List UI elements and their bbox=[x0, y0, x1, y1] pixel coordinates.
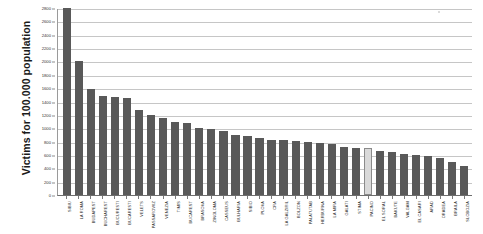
x-axis-tick-label: ARAD bbox=[428, 190, 432, 201]
y-axis-tick-mark bbox=[52, 35, 55, 36]
bar-slot bbox=[374, 9, 386, 195]
bar[interactable] bbox=[255, 138, 263, 195]
y-axis-tick-mark bbox=[52, 102, 55, 103]
x-axis-tick-slot: PLOVA bbox=[253, 196, 265, 234]
bar[interactable] bbox=[75, 61, 83, 195]
bar[interactable] bbox=[243, 136, 251, 195]
x-axis-tick-label: PASSAROWIZ bbox=[150, 174, 154, 201]
bar[interactable] bbox=[171, 122, 179, 195]
x-axis-tick-label: LA ROMA bbox=[78, 183, 82, 201]
y-axis-tick-label: 0 bbox=[49, 194, 51, 198]
y-axis-tick-label: 1200 bbox=[42, 114, 51, 118]
bar-slot bbox=[386, 9, 398, 195]
x-axis-tick-label-text: PALATUTAB bbox=[309, 201, 313, 224]
x-axis-tick-slot: ZINGLOMA bbox=[205, 196, 217, 234]
x-axis-tick-slot: PACINO bbox=[362, 196, 374, 234]
y-axis-tick-mark bbox=[52, 62, 55, 63]
y-axis-tick-mark bbox=[52, 196, 55, 197]
x-axis-tick-label-text: EL CASARI bbox=[417, 201, 421, 223]
x-axis-tick-label: LA GALZIRIL bbox=[283, 176, 287, 201]
x-axis-tick-label: BUCURESTI bbox=[114, 177, 118, 201]
bar-slot bbox=[266, 9, 278, 195]
x-axis-tick-slot: BRASOVA bbox=[193, 196, 205, 234]
y-axis-tick-label: 2400 bbox=[42, 34, 51, 38]
x-axis-tick-slot: SLOBOZIA bbox=[458, 196, 470, 234]
y-axis-tick-label: 2000 bbox=[42, 60, 51, 64]
y-axis-tick-mark bbox=[52, 155, 55, 156]
x-axis-tick-slot: STIMA bbox=[350, 196, 362, 234]
y-axis-tick-label: 2800 bbox=[42, 7, 51, 11]
x-axis-tick-slot: CASSEUS bbox=[217, 196, 229, 234]
bar-slot bbox=[278, 9, 290, 195]
x-axis-tick-slot: BULHARIA bbox=[229, 196, 241, 234]
x-axis-tick-labels: SIBIULA ROMABUDAPESTBUCHARESTBUCURESTIBU… bbox=[57, 196, 472, 234]
bar-slot bbox=[61, 9, 73, 195]
x-axis-tick-label-text: STIMA bbox=[357, 201, 361, 214]
bar-slot bbox=[446, 9, 458, 195]
x-axis-tick-label-text: BRAILA bbox=[454, 201, 458, 216]
bar-slot bbox=[290, 9, 302, 195]
x-axis-tick-slot: LA GALZIRIL bbox=[277, 196, 289, 234]
bar-slot bbox=[229, 9, 241, 195]
x-axis-tick-slot: BUCAREST bbox=[181, 196, 193, 234]
x-axis-tick-slot: HERBURNA bbox=[313, 196, 325, 234]
bar-slot bbox=[410, 9, 422, 195]
y-axis-tick-label: 600 bbox=[44, 154, 51, 158]
x-axis-tick-label-text: SLOBOZIA bbox=[466, 201, 470, 222]
bar-slot bbox=[133, 9, 145, 195]
bar-slot bbox=[302, 9, 314, 195]
x-axis-tick-label-text: VELETS bbox=[140, 201, 144, 217]
x-axis-tick-slot: PASSAROWIZ bbox=[144, 196, 156, 234]
x-axis-tick-label: VELETS bbox=[138, 185, 142, 201]
x-axis-tick-slot: BUDAPEST bbox=[84, 196, 96, 234]
x-axis-tick-slot: SIBIO bbox=[241, 196, 253, 234]
x-axis-tick-label-text: BOLZON bbox=[297, 201, 301, 218]
x-axis-tick-slot: BUCHAREST bbox=[96, 196, 108, 234]
bar-slot bbox=[338, 9, 350, 195]
x-axis-tick-label: CASSEUS bbox=[223, 181, 227, 201]
x-axis-tick-slot: ARAD bbox=[422, 196, 434, 234]
x-axis-tick-slot: GALATI bbox=[337, 196, 349, 234]
bar-slot bbox=[458, 9, 470, 195]
x-axis-tick-label-text: PACINO bbox=[369, 201, 373, 217]
y-axis-tick-mark bbox=[52, 142, 55, 143]
y-axis-tick-mark bbox=[52, 22, 55, 23]
x-axis-tick-label-text: BAKUTE bbox=[393, 201, 397, 217]
x-axis-tick-label-text: CRA bbox=[273, 201, 277, 210]
x-axis-tick-label-text: EL SORAL bbox=[381, 201, 385, 221]
y-axis-tick-mark bbox=[52, 9, 55, 10]
x-axis-tick-label-text: LA GALZIRIL bbox=[285, 201, 289, 226]
x-axis-tick-label: VENEZIA bbox=[163, 183, 167, 201]
x-axis-tick-label-text: LA ROMA bbox=[80, 201, 84, 219]
x-axis-tick-label-text: BRASOVA bbox=[200, 201, 204, 221]
x-axis-tick-label: PLOVA bbox=[259, 188, 263, 201]
x-axis-tick-label-text: BULHARIA bbox=[237, 201, 241, 222]
x-axis-tick-label: BUDAPEST bbox=[90, 179, 94, 201]
x-axis-tick-label: BRASOVA bbox=[199, 181, 203, 201]
bar-slot bbox=[398, 9, 410, 195]
x-axis-tick-slot: VALGAM bbox=[398, 196, 410, 234]
x-axis-tick-label-text: SIBIU bbox=[68, 201, 72, 212]
y-axis-tick-mark bbox=[52, 129, 55, 130]
bar[interactable] bbox=[267, 140, 275, 195]
bar[interactable] bbox=[63, 8, 71, 195]
x-axis-tick-label: BAKUTE bbox=[392, 185, 396, 201]
x-axis-tick-slot: BOLZON bbox=[289, 196, 301, 234]
x-axis-tick-label-text: BUDAPEST bbox=[92, 201, 96, 223]
bar-slot bbox=[157, 9, 169, 195]
x-axis-tick-label-text: ARAD bbox=[430, 201, 434, 212]
x-axis-tick-label: TIMIS bbox=[175, 190, 179, 201]
x-axis-tick-label: SIBIU bbox=[66, 190, 70, 201]
x-axis-tick-slot: EL SORAL bbox=[374, 196, 386, 234]
x-axis-tick-label: BUCHAREST bbox=[102, 176, 106, 201]
bar-slot bbox=[422, 9, 434, 195]
x-axis-tick-label: BUCAREST bbox=[187, 179, 191, 201]
x-axis-tick-label: BULHARIA bbox=[235, 180, 239, 201]
x-axis-tick-label-text: VALGAM bbox=[405, 201, 409, 218]
x-axis-tick-label-text: VENEZIA bbox=[164, 201, 168, 219]
x-axis-tick-label-text: PLOVA bbox=[261, 201, 265, 214]
x-axis-tick-slot: SIBIU bbox=[60, 196, 72, 234]
y-axis-tick-label: 800 bbox=[44, 140, 51, 144]
bar[interactable] bbox=[135, 110, 143, 195]
x-axis-tick-label-text: ZINGLOMA bbox=[212, 201, 216, 223]
